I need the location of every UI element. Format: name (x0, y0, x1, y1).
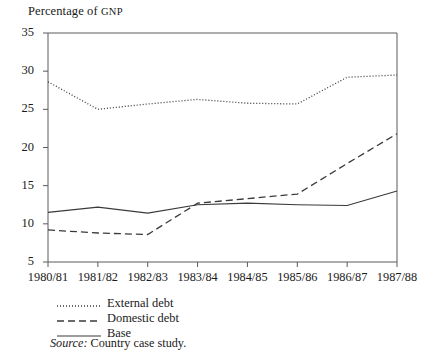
legend-label: Domestic debt (101, 311, 179, 326)
legend-swatch-dashed (57, 313, 101, 325)
chart-legend: External debtDomestic debtBase (57, 296, 317, 341)
y-tick-label: 25 (10, 101, 34, 116)
legend-item: Domestic debt (57, 311, 317, 326)
y-tick-label: 35 (10, 25, 34, 40)
legend-item: External debt (57, 296, 317, 311)
axes-group (48, 33, 397, 262)
y-tick-label: 20 (10, 140, 34, 155)
y-tick-label: 5 (10, 254, 34, 269)
source-value: Country case study. (87, 336, 186, 350)
source-note: Source: Country case study. (50, 336, 186, 351)
source-label: Source: (50, 336, 87, 350)
chart-figure: Percentage of GNP 5101520253035 1980/811… (0, 0, 430, 356)
data-series-group (48, 75, 397, 235)
legend-swatch-dotted (57, 298, 101, 310)
legend-label: External debt (101, 296, 173, 311)
x-axis-tick-marks (48, 262, 397, 267)
y-tick-label: 15 (10, 178, 34, 193)
y-axis-tick-marks (43, 33, 48, 262)
series-line-domestic-debt (48, 134, 397, 235)
y-tick-label: 30 (10, 63, 34, 78)
series-line-base (48, 191, 397, 213)
x-tick-label: 1987/88 (367, 270, 427, 285)
y-tick-label: 10 (10, 216, 34, 231)
series-line-external-debt (48, 75, 397, 109)
